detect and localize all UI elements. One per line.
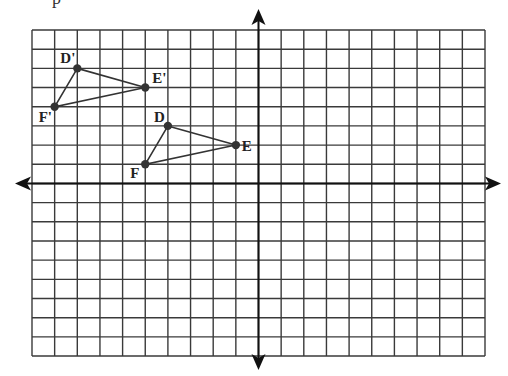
coordinate-grid: DEFD'E'F': [0, 0, 508, 376]
axes: [15, 9, 501, 370]
point-label: E: [242, 138, 252, 154]
point-label: E': [152, 70, 166, 86]
point-d: [164, 122, 172, 130]
point-e-prime: [141, 83, 149, 91]
point-e: [232, 141, 240, 149]
point-label: F: [130, 165, 139, 181]
point-label: D': [60, 50, 75, 66]
point-label: D: [154, 109, 165, 125]
point-f: [141, 160, 149, 168]
point-label: F': [39, 109, 52, 125]
